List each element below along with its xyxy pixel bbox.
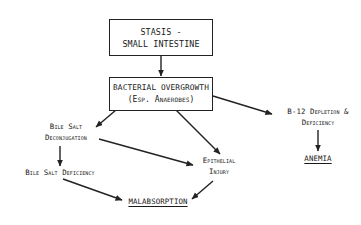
flow-diagram: STASIS - SMALL INTESTINE BACTERIAL OVERG…	[0, 0, 361, 225]
node-b12-line-2: Deficiency	[274, 117, 361, 128]
node-epithelial-injury: Epithelial Injury	[192, 155, 246, 177]
node-stasis-line-1: STASIS -	[140, 26, 181, 38]
node-overgrowth-line-1: BACTERIAL OVERGROWTH	[113, 82, 209, 94]
node-b12-depletion: B-12 Depletion & Deficiency	[274, 106, 361, 128]
node-malabsorption: MALABSORPTION	[126, 196, 190, 207]
node-deconjugation-line-2: Deconjugation	[32, 132, 100, 143]
node-bile-salt-deficiency: Bile Salt Deficiency	[10, 167, 110, 178]
node-deconjugation-line-1: Bile Salt	[32, 121, 100, 132]
node-overgrowth-line-2: (Esp. Anaerobes)	[128, 94, 195, 106]
arrow-deconjugation-to-epithelial	[99, 139, 193, 165]
arrow-bile-deficiency-to-malabsorption	[63, 179, 122, 200]
node-stasis-line-2: SMALL INTESTINE	[122, 38, 199, 50]
node-anemia: ANEMIA	[300, 153, 336, 164]
node-bile-deficiency-line-1: Bile Salt Deficiency	[10, 167, 110, 178]
node-bile-salt-deconjugation: Bile Salt Deconjugation	[32, 121, 100, 143]
node-stasis: STASIS - SMALL INTESTINE	[109, 19, 213, 56]
arrow-overgrowth-to-b12	[213, 96, 272, 114]
arrow-epithelial-to-malabsorption	[192, 181, 213, 199]
node-bacterial-overgrowth: BACTERIAL OVERGROWTH (Esp. Anaerobes)	[109, 77, 213, 111]
arrow-overgrowth-to-epithelial	[176, 110, 220, 154]
node-b12-line-1: B-12 Depletion &	[274, 106, 361, 117]
node-malabsorption-line-1: MALABSORPTION	[126, 196, 190, 207]
node-epithelial-line-2: Injury	[192, 166, 246, 177]
node-anemia-line-1: ANEMIA	[300, 153, 336, 164]
node-epithelial-line-1: Epithelial	[192, 155, 246, 166]
